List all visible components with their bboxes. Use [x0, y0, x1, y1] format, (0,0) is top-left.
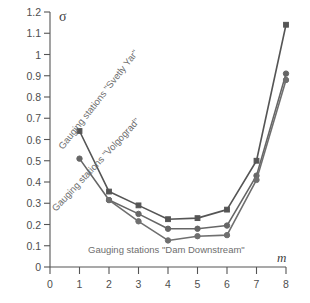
- y-tick-label: 0.3: [26, 197, 41, 209]
- x-tick-label: 3: [136, 278, 142, 290]
- data-point-marker: [195, 233, 200, 238]
- x-tick-label: 8: [283, 278, 289, 290]
- data-point-marker: [254, 158, 259, 163]
- data-point-marker: [77, 156, 82, 161]
- x-tick-label: 1: [77, 278, 83, 290]
- data-point-marker: [224, 232, 229, 237]
- annotation-layer: Gauging stations "Svetly Yar" Gauging st…: [49, 47, 244, 255]
- x-tick-label: 2: [106, 278, 112, 290]
- data-point-marker: [254, 177, 259, 182]
- y-tick-label: 1.1: [26, 27, 41, 39]
- y-tick-label: 0: [35, 261, 41, 273]
- data-point-marker: [136, 219, 141, 224]
- data-point-marker: [165, 226, 170, 231]
- data-point-marker: [106, 197, 111, 202]
- y-tick-label: 0.7: [26, 112, 41, 124]
- data-point-marker: [107, 189, 112, 194]
- x-tick-label: 4: [165, 278, 171, 290]
- x-tick-label: 7: [254, 278, 260, 290]
- x-axis-ticks: 0 1 2 3 4 5 6 7 8: [47, 267, 289, 290]
- x-tick-label: 5: [195, 278, 201, 290]
- chart-container: 1.2 1.1 1 0.9 0.8 0.7 0.6 0.5 0.4 0.3 0.…: [0, 0, 310, 303]
- y-tick-label: 0.8: [26, 91, 41, 103]
- y-tick-label: 0.9: [26, 70, 41, 82]
- y-axis-ticks: 1.2 1.1 1 0.9 0.8 0.7 0.6 0.5 0.4 0.3 0.…: [26, 6, 50, 273]
- x-axis-title: m: [277, 250, 286, 265]
- annotation-volgograd: Gauging stations "Volgograd": [49, 116, 141, 214]
- annotation-dam-downstream: Gauging stations "Dam Downstream": [88, 244, 245, 255]
- x-tick-label: 0: [47, 278, 53, 290]
- data-point-marker: [166, 217, 171, 222]
- data-point-marker: [195, 226, 200, 231]
- data-point-marker: [195, 216, 200, 221]
- data-point-marker: [224, 223, 229, 228]
- y-axis-title: σ: [59, 9, 67, 24]
- chart-plot-area: 1.2 1.1 1 0.9 0.8 0.7 0.6 0.5 0.4 0.3 0.…: [0, 0, 310, 303]
- y-tick-label: 0.6: [26, 134, 41, 146]
- y-tick-label: 1: [35, 49, 41, 61]
- y-tick-label: 1.2: [26, 6, 41, 18]
- series-layer: [77, 22, 289, 243]
- x-tick-label: 6: [224, 278, 230, 290]
- data-point-marker: [283, 77, 288, 82]
- y-tick-label: 0.1: [26, 240, 41, 252]
- series-1: [77, 22, 288, 221]
- data-point-marker: [136, 203, 141, 208]
- data-point-marker: [136, 211, 141, 216]
- y-tick-label: 0.2: [26, 219, 41, 231]
- data-point-marker: [283, 71, 288, 76]
- data-point-marker: [225, 207, 230, 212]
- data-point-marker: [165, 238, 170, 243]
- data-point-marker: [284, 22, 289, 27]
- y-tick-label: 0.4: [26, 176, 41, 188]
- y-tick-label: 0.5: [26, 155, 41, 167]
